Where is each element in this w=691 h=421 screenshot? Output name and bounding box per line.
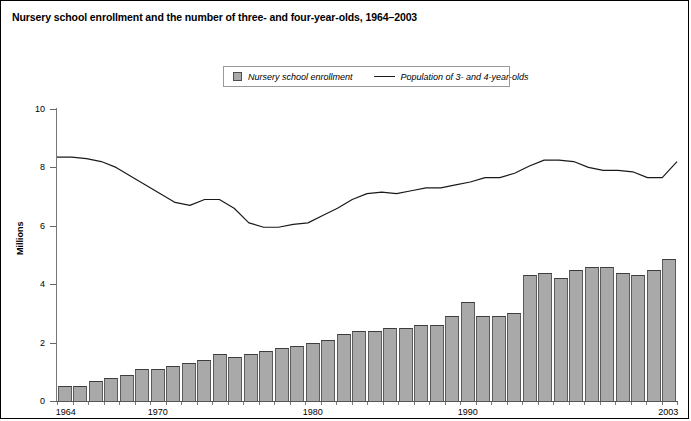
line-swatch-icon xyxy=(374,76,395,77)
x-tick-minor xyxy=(135,402,136,405)
x-tick-minor xyxy=(73,402,74,405)
x-tick-minor xyxy=(197,402,198,405)
page-title: Nursery school enrollment and the number… xyxy=(12,11,417,23)
x-tick-minor xyxy=(274,402,275,405)
x-tick-minor xyxy=(57,402,58,405)
x-tick-minor xyxy=(460,402,461,405)
y-tick-label-6: 6 xyxy=(23,221,45,231)
x-tick-minor xyxy=(181,402,182,405)
x-tick-minor xyxy=(615,402,616,405)
x-tick-minor xyxy=(631,402,632,405)
population-line xyxy=(57,157,677,227)
x-tick-minor xyxy=(662,402,663,405)
x-tick-label-1970: 1970 xyxy=(148,407,168,417)
legend-entry-bar: Nursery school enrollment xyxy=(233,72,353,82)
y-tick-label-8: 8 xyxy=(23,162,45,172)
x-tick-minor xyxy=(88,402,89,405)
x-tick-minor xyxy=(305,402,306,405)
line-series xyxy=(57,109,677,401)
x-tick-minor xyxy=(212,402,213,405)
x-tick-minor xyxy=(491,402,492,405)
x-tick-minor xyxy=(553,402,554,405)
x-tick-minor xyxy=(476,402,477,405)
x-tick-minor xyxy=(228,402,229,405)
x-tick-minor xyxy=(243,402,244,405)
chart-figure: Nursery school enrollment and the number… xyxy=(0,0,689,419)
y-tick-2 xyxy=(50,343,56,344)
y-tick-0 xyxy=(50,401,56,402)
x-tick-label-2003: 2003 xyxy=(658,407,678,417)
x-tick-minor xyxy=(445,402,446,405)
x-tick-label-1980: 1980 xyxy=(303,407,323,417)
x-tick-minor xyxy=(538,402,539,405)
x-tick-minor xyxy=(569,402,570,405)
x-tick-minor xyxy=(429,402,430,405)
legend-label-bar: Nursery school enrollment xyxy=(248,72,353,82)
x-tick-label-1990: 1990 xyxy=(458,407,478,417)
x-tick-minor xyxy=(677,402,678,405)
chart-legend: Nursery school enrollment Population of … xyxy=(223,66,510,87)
y-tick-6 xyxy=(50,226,56,227)
y-tick-4 xyxy=(50,284,56,285)
legend-label-line: Population of 3- and 4-year-olds xyxy=(401,72,529,82)
bar-swatch-icon xyxy=(233,72,242,81)
x-tick-minor xyxy=(600,402,601,405)
x-tick-minor xyxy=(119,402,120,405)
x-tick-label-1964: 1964 xyxy=(56,407,76,417)
x-tick-minor xyxy=(259,402,260,405)
x-tick-minor xyxy=(414,402,415,405)
plot-area xyxy=(57,109,677,401)
x-tick-minor xyxy=(522,402,523,405)
y-tick-label-4: 4 xyxy=(23,279,45,289)
x-tick-minor xyxy=(166,402,167,405)
x-tick-minor xyxy=(336,402,337,405)
y-tick-label-0: 0 xyxy=(23,396,45,406)
x-tick-minor xyxy=(584,402,585,405)
x-tick-minor xyxy=(507,402,508,405)
x-tick-minor xyxy=(104,402,105,405)
x-tick-minor xyxy=(352,402,353,405)
x-tick-minor xyxy=(398,402,399,405)
x-tick-minor xyxy=(383,402,384,405)
x-tick-minor xyxy=(150,402,151,405)
legend-entry-line: Population of 3- and 4-year-olds xyxy=(374,72,529,82)
y-tick-10 xyxy=(50,109,56,110)
x-tick-minor xyxy=(646,402,647,405)
x-tick-minor xyxy=(367,402,368,405)
y-tick-label-2: 2 xyxy=(23,338,45,348)
y-tick-8 xyxy=(50,167,56,168)
x-tick-minor xyxy=(321,402,322,405)
x-tick-minor xyxy=(290,402,291,405)
y-tick-label-10: 10 xyxy=(23,104,45,114)
